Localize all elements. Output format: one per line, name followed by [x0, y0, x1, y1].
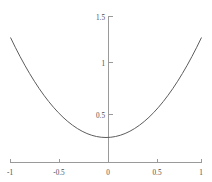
y-tick-label-1-5: 1.5 [96, 14, 105, 22]
x-tick-label-0: 0 [106, 169, 110, 177]
x-tick-label-1: 1 [199, 169, 203, 177]
function-plot-svg: -1 -0.5 0 0.5 1 0.5 1 1.5 [0, 0, 212, 182]
y-tick-label-1: 1 [101, 60, 105, 68]
plot-background [0, 0, 212, 182]
x-tick-label-0-5: 0.5 [153, 169, 162, 177]
plot-figure: -1 -0.5 0 0.5 1 0.5 1 1.5 [0, 0, 212, 182]
x-tick-label-minus1: -1 [7, 169, 13, 177]
y-tick-label-0-5: 0.5 [96, 112, 105, 120]
x-tick-label-minus0-5: -0.5 [53, 169, 65, 177]
